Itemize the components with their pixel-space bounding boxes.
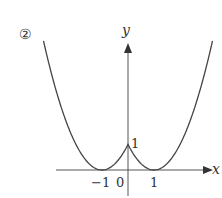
tick-label-y1: 1 [131, 136, 139, 151]
tick-label-1: 1 [150, 175, 158, 190]
y-axis-label: y [122, 22, 130, 38]
figure-number-label: ② [19, 26, 32, 42]
function-graph [0, 0, 222, 198]
tick-label-0: 0 [116, 175, 124, 190]
y-axis-arrow-icon [124, 43, 132, 53]
tick-label-neg1: −1 [91, 175, 110, 190]
x-axis-label: x [212, 161, 220, 177]
